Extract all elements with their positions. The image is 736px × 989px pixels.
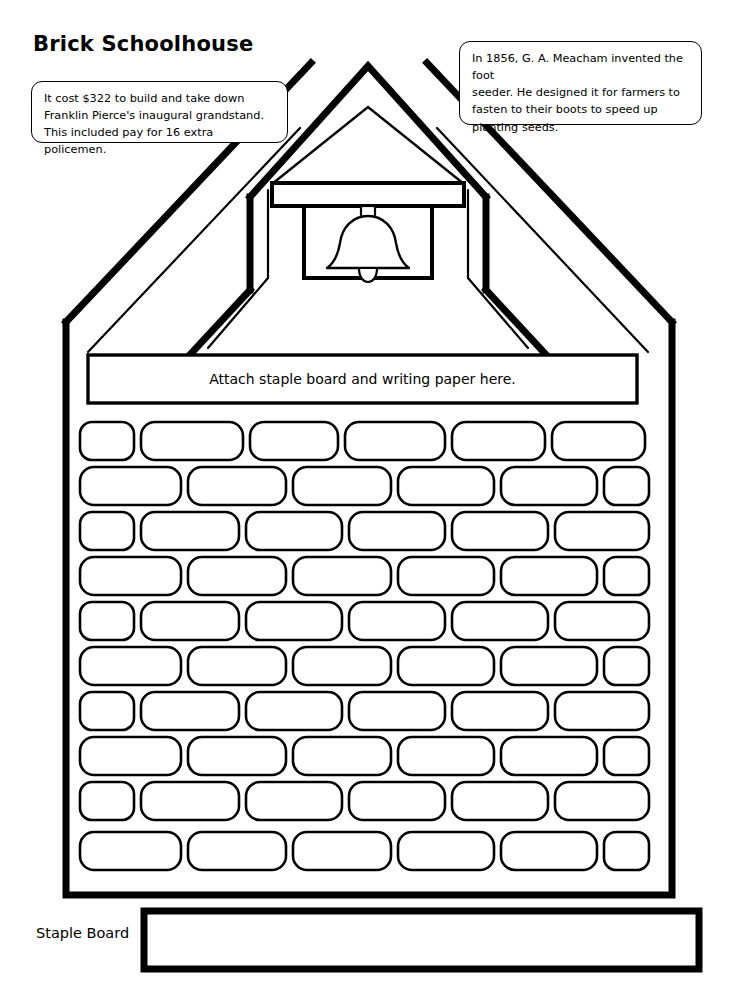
staple-board-box[interactable] (144, 911, 699, 969)
brick (452, 782, 548, 820)
brick (452, 422, 545, 460)
brick (293, 832, 391, 870)
page-title: Brick Schoolhouse (33, 32, 253, 56)
brick-half (80, 422, 134, 460)
brick-row-7 (80, 692, 649, 730)
brick (80, 647, 181, 685)
brick (349, 512, 445, 550)
bell-clapper-icon (359, 268, 377, 282)
brick-half (80, 692, 134, 730)
brick (452, 692, 548, 730)
brick (345, 422, 445, 460)
brick (188, 557, 286, 595)
brick (398, 647, 494, 685)
brick (246, 782, 342, 820)
brick (398, 737, 494, 775)
brick (80, 737, 181, 775)
brick-half (604, 737, 649, 775)
staple-board-label: Staple Board (36, 925, 129, 941)
brick (501, 832, 597, 870)
brick (141, 692, 239, 730)
brick-row-4 (80, 557, 649, 595)
fact-box-left-text: It cost $322 to build and take down Fran… (44, 90, 277, 159)
brick (80, 557, 181, 595)
brick-half (80, 602, 134, 640)
brick-row-8 (80, 737, 649, 775)
brick (501, 557, 597, 595)
brick (349, 782, 445, 820)
attach-banner-box[interactable] (88, 355, 637, 403)
brick (552, 422, 645, 460)
fact-box-left: It cost $322 to build and take down Fran… (31, 81, 288, 143)
brick (398, 467, 494, 505)
brick (141, 512, 239, 550)
brick (293, 557, 391, 595)
brick (349, 602, 445, 640)
brick-row-9 (80, 782, 649, 820)
brick-wall (80, 422, 649, 870)
brick (188, 467, 286, 505)
brick-half (604, 557, 649, 595)
brick (188, 737, 286, 775)
brick (141, 602, 239, 640)
brick (141, 422, 243, 460)
brick (398, 832, 494, 870)
brick-half (80, 512, 134, 550)
fact-box-right: In 1856, G. A. Meacham invented the foot… (459, 41, 702, 125)
brick (555, 692, 649, 730)
brick-row-6 (80, 647, 649, 685)
brick (246, 512, 342, 550)
brick-half (604, 647, 649, 685)
brick (501, 647, 597, 685)
cupola-beam (272, 183, 464, 206)
brick (188, 832, 286, 870)
brick-half (80, 782, 134, 820)
brick (555, 602, 649, 640)
brick (188, 647, 286, 685)
brick-row-3 (80, 512, 649, 550)
bell-icon (327, 216, 409, 268)
brick (246, 602, 342, 640)
brick (141, 782, 239, 820)
brick-half (604, 467, 649, 505)
brick (555, 512, 649, 550)
brick (293, 647, 391, 685)
brick-row-2 (80, 467, 649, 505)
brick (349, 692, 445, 730)
brick (452, 602, 548, 640)
brick (80, 467, 181, 505)
brick-half (604, 832, 649, 870)
brick-row-10 (80, 832, 649, 870)
brick-row-5 (80, 602, 649, 640)
fact-box-right-text: In 1856, G. A. Meacham invented the foot… (472, 50, 691, 136)
brick (501, 737, 597, 775)
brick (452, 512, 548, 550)
brick (80, 832, 181, 870)
brick (398, 557, 494, 595)
brick (293, 467, 391, 505)
brick (293, 737, 391, 775)
worksheet-page: Brick Schoolhouse It cost $322 to build … (0, 0, 736, 989)
brick (501, 467, 597, 505)
brick-row-1 (80, 422, 645, 460)
brick (246, 692, 342, 730)
brick (555, 782, 649, 820)
brick (250, 422, 338, 460)
